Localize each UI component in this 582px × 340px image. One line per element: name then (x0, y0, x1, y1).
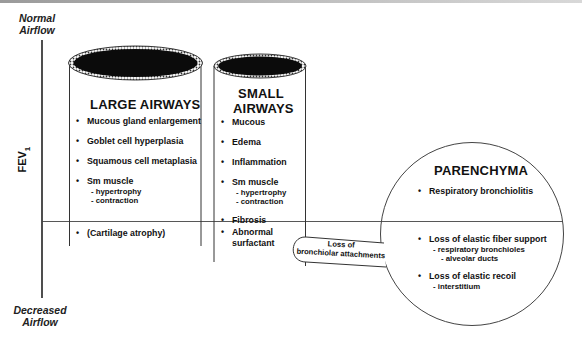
list-item: Squamous cell metaplasia (76, 156, 201, 167)
list-item: Inflammation (221, 157, 287, 168)
normal-label-line2: Airflow (6, 24, 68, 36)
small-airways-title: SMALL AIRWAYS (233, 86, 289, 116)
parenchyma-below-list: Loss of elastic fiber support - respirat… (418, 234, 547, 291)
normal-label-line1: Normal (6, 12, 68, 24)
fev-text: FEV (16, 151, 28, 172)
list-item: Sm muscle - hypertrophy - contraction (76, 176, 201, 205)
sub-item: - respiratory bronchioles (429, 245, 547, 254)
small-airways-below-list: Abnormalsurfactant (221, 227, 275, 249)
list-item: Loss of elastic fiber support - respirat… (418, 234, 547, 263)
sub-item: - alveolar ducts (429, 254, 547, 263)
list-item: Mucous (221, 117, 287, 128)
sub-item: - interstitium (429, 282, 547, 291)
decreased-label-line1: Decreased (4, 304, 76, 316)
sub-item: - contraction (87, 196, 201, 205)
decreased-label-line2: Airflow (4, 316, 76, 328)
fev-subscript: 1 (23, 147, 32, 151)
normal-airflow-label: Normal Airflow (6, 12, 68, 36)
small-airways-above-list: Mucous Edema Inflammation Sm muscle - hy… (221, 117, 287, 226)
small-title-line2: AIRWAYS (233, 101, 289, 116)
list-item: Sm muscle - hypertrophy - contraction (221, 177, 287, 206)
decreased-airflow-label: Decreased Airflow (4, 304, 76, 328)
list-item: Edema (221, 137, 287, 148)
fev1-axis-label: FEV1 (16, 140, 31, 180)
list-item: Fibrosis (221, 215, 287, 226)
sub-item: - hypertrophy (232, 188, 287, 197)
large-airways-title: LARGE AIRWAYS (90, 97, 200, 112)
sub-item: - contraction (232, 197, 287, 206)
list-item: Goblet cell hyperplasia (76, 136, 201, 147)
list-item: Abnormalsurfactant (221, 227, 275, 249)
list-item: Loss of elastic recoil - interstitium (418, 271, 547, 291)
list-item: (Cartilage atrophy) (76, 228, 165, 239)
sub-item: - hypertrophy (87, 187, 201, 196)
large-airways-below-list: (Cartilage atrophy) (76, 228, 165, 239)
parenchyma-above-list: Respiratory bronchiolitis (418, 186, 533, 197)
small-title-line1: SMALL (233, 86, 289, 101)
parenchyma-title: PARENCHYMA (434, 163, 528, 178)
list-item: Mucous gland enlargement (76, 116, 201, 127)
list-item: Respiratory bronchiolitis (418, 186, 533, 197)
large-airways-above-list: Mucous gland enlargement Goblet cell hyp… (76, 116, 201, 205)
